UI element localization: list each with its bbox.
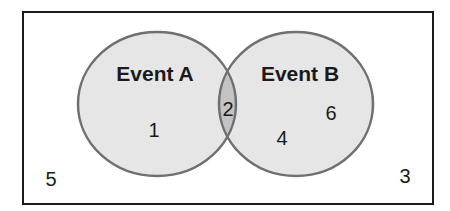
outside-element-5: 5 — [45, 168, 56, 190]
event-b-label: Event B — [261, 62, 339, 85]
outside-element-3: 3 — [399, 165, 410, 187]
a-only-element-1: 1 — [148, 119, 159, 141]
b-only-element-4: 4 — [276, 127, 287, 149]
event-a-label: Event A — [116, 62, 193, 85]
intersection-element-2: 2 — [222, 98, 233, 120]
venn-diagram: Event A Event B 1 2 6 4 5 3 — [0, 0, 450, 211]
b-only-element-6: 6 — [325, 102, 336, 124]
